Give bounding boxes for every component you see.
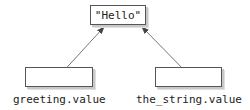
string-value: "Hello"	[91, 9, 145, 22]
the-string-label: the_string.value	[136, 93, 242, 106]
greeting-variable-box	[25, 67, 93, 87]
string-object-box: "Hello"	[90, 5, 146, 25]
greeting-label: greeting.value	[13, 93, 106, 106]
the-string-variable-box	[155, 67, 222, 87]
